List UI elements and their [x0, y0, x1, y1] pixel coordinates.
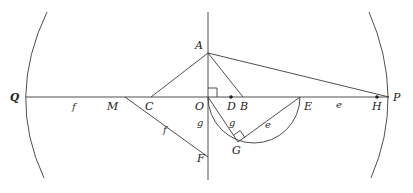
label-F: F [196, 152, 205, 165]
segment-label-EH: e [336, 99, 342, 110]
semicircle-OE [208, 97, 300, 143]
line-AB [208, 53, 243, 97]
geometry-diagram: Q P A M C O D B E H F G f f g g e e [0, 0, 413, 193]
right-arc [369, 12, 388, 178]
label-G: G [232, 144, 241, 157]
label-H: H [371, 100, 382, 113]
segment-label-GE: e [265, 119, 271, 130]
label-O: O [195, 100, 204, 113]
right-angle-marker-O [208, 88, 217, 97]
line-AC [151, 53, 208, 97]
label-B: B [239, 100, 248, 113]
label-C: C [145, 100, 154, 113]
segment-label-OF: g [197, 117, 203, 128]
label-M: M [106, 100, 119, 113]
segment-label-OG: g [229, 117, 235, 128]
segment-label-MF: f [162, 124, 169, 135]
label-A: A [194, 39, 203, 52]
label-P: P [392, 91, 401, 104]
label-Q: Q [10, 91, 19, 103]
point-D-dot [229, 95, 233, 99]
label-E: E [303, 100, 312, 113]
point-H-dot [375, 95, 379, 99]
line-AP [208, 53, 389, 97]
segment-label-QM: f [71, 101, 78, 112]
left-arc [26, 12, 47, 178]
label-D: D [226, 100, 236, 113]
right-angle-marker-G [234, 131, 245, 138]
